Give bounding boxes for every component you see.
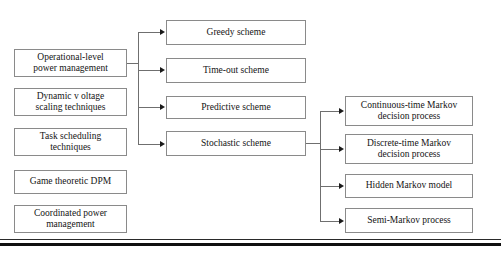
node-label-line1: Operational-level bbox=[33, 52, 108, 64]
connector-stub-stochastic bbox=[306, 143, 320, 144]
node-discrete-time-markov-decision-process[interactable]: Discrete-time Markov decision process bbox=[345, 134, 473, 164]
node-label-line1: Dynamic v oltage bbox=[36, 91, 106, 103]
node-label: Time-out scheme bbox=[203, 65, 269, 77]
arrowhead-discrete-time-markov bbox=[339, 146, 344, 152]
arrowhead-time-out bbox=[160, 67, 165, 73]
node-task-scheduling-techniques[interactable]: Task scheduling techniques bbox=[14, 128, 127, 156]
node-stochastic-scheme[interactable]: Stochastic scheme bbox=[166, 131, 306, 156]
connector-branch-semi-markov bbox=[320, 221, 339, 222]
node-hidden-markov-model[interactable]: Hidden Markov model bbox=[345, 174, 473, 198]
node-continuous-time-markov-decision-process[interactable]: Continuous-time Markov decision process bbox=[345, 96, 473, 126]
connector-trunk-left bbox=[138, 32, 139, 144]
node-label-line1: Task scheduling bbox=[40, 131, 101, 143]
footer-rule bbox=[0, 243, 501, 246]
footer-rule-thin bbox=[0, 239, 501, 240]
node-predictive-scheme[interactable]: Predictive scheme bbox=[166, 96, 306, 119]
node-label-line2: decision process bbox=[367, 149, 451, 161]
node-label-line1: Game theoretic DPM bbox=[30, 176, 111, 188]
node-label-line2: power management bbox=[33, 63, 108, 75]
diagram-canvas: Operational-level power management Dynam… bbox=[0, 0, 501, 256]
node-label-line1: Coordinated power bbox=[34, 208, 107, 220]
node-label-line1: Continuous-time Markov bbox=[361, 100, 457, 112]
connector-branch-stochastic bbox=[138, 144, 160, 145]
connector-branch-predictive bbox=[138, 107, 160, 108]
node-label: Stochastic scheme bbox=[201, 138, 271, 150]
node-time-out-scheme[interactable]: Time-out scheme bbox=[166, 58, 306, 83]
arrowhead-continuous-time-markov bbox=[339, 108, 344, 114]
arrowhead-semi-markov bbox=[339, 218, 344, 224]
arrowhead-greedy bbox=[160, 29, 165, 35]
node-operational-level-power-management[interactable]: Operational-level power management bbox=[14, 49, 127, 77]
arrowhead-stochastic bbox=[160, 141, 165, 147]
connector-branch-continuous-time-markov bbox=[320, 111, 339, 112]
node-label-line1: Hidden Markov model bbox=[366, 180, 453, 192]
arrowhead-hidden-markov bbox=[339, 183, 344, 189]
node-label-line1: Semi-Markov process bbox=[367, 215, 451, 227]
node-game-theoretic-dpm[interactable]: Game theoretic DPM bbox=[14, 170, 127, 194]
node-greedy-scheme[interactable]: Greedy scheme bbox=[166, 20, 306, 45]
connector-branch-time-out bbox=[138, 70, 160, 71]
node-label-line2: scaling techniques bbox=[36, 102, 106, 114]
node-label: Greedy scheme bbox=[207, 27, 266, 39]
connector-branch-discrete-time-markov bbox=[320, 149, 339, 150]
node-label-line2: decision process bbox=[361, 111, 457, 123]
node-coordinated-power-management[interactable]: Coordinated power management bbox=[14, 205, 127, 233]
arrowhead-predictive bbox=[160, 104, 165, 110]
node-label-line1: Discrete-time Markov bbox=[367, 138, 451, 150]
node-label: Predictive scheme bbox=[201, 102, 270, 114]
connector-trunk-right bbox=[320, 111, 321, 221]
node-label-line2: management bbox=[34, 219, 107, 231]
connector-branch-hidden-markov bbox=[320, 186, 339, 187]
connector-branch-greedy bbox=[138, 32, 160, 33]
node-label-line2: techniques bbox=[40, 142, 101, 154]
connector-stub-operational-level bbox=[127, 63, 138, 64]
node-semi-markov-process[interactable]: Semi-Markov process bbox=[345, 208, 473, 233]
node-dynamic-voltage-scaling-techniques[interactable]: Dynamic v oltage scaling techniques bbox=[14, 88, 127, 116]
